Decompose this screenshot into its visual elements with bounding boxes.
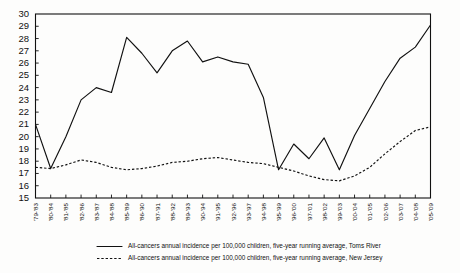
x-tick-label: '03-'07 xyxy=(397,202,404,221)
x-tick-label: '81-'85 xyxy=(62,202,69,221)
y-tick-label: 24 xyxy=(18,82,29,93)
x-tick-label: '99-'03 xyxy=(336,202,343,221)
x-tick-label: '87-'91 xyxy=(154,202,161,221)
y-tick-label: 28 xyxy=(18,33,29,44)
x-tick-label: '82-'86 xyxy=(78,202,85,221)
y-tick-label: 15 xyxy=(18,192,29,203)
y-tick-label: 26 xyxy=(18,57,29,68)
x-tick-label: '01-'05 xyxy=(366,202,373,221)
x-tick-label: '93-'97 xyxy=(245,202,252,221)
y-tick-label: 25 xyxy=(18,69,29,80)
x-tick-label: '80-'84 xyxy=(47,202,54,221)
y-tick-label: 20 xyxy=(18,131,29,142)
x-tick-label: '95-'99 xyxy=(275,202,282,221)
y-tick-label: 19 xyxy=(18,143,29,154)
x-tick-label: '88-'92 xyxy=(169,202,176,221)
y-axis-tick-labels: 15161718192021222324252627282930 xyxy=(18,8,29,203)
chart-container: 15161718192021222324252627282930 '79-'83… xyxy=(0,0,460,273)
y-tick-label: 22 xyxy=(18,106,29,117)
x-tick-label: '97-'01 xyxy=(306,202,313,221)
series-line-toms-river xyxy=(36,25,431,170)
x-tick-label: '85-'89 xyxy=(123,202,130,221)
chart-legend: All-cancers annual incidence per 100,000… xyxy=(97,242,383,262)
legend-label-toms-river: All-cancers annual incidence per 100,000… xyxy=(128,242,382,250)
y-tick-label: 27 xyxy=(18,45,29,56)
x-tick-label: '00-'04 xyxy=(351,202,358,221)
x-tick-label: '90-'94 xyxy=(199,202,206,221)
x-tick-label: '98-'02 xyxy=(321,202,328,221)
x-tick-label: '02-'06 xyxy=(382,202,389,221)
x-axis-tick-labels: '79-'83'80-'84'81-'85'82-'86'83-'87'84-'… xyxy=(32,202,434,221)
y-tick-label: 17 xyxy=(18,167,29,178)
x-tick-label: '86-'90 xyxy=(138,202,145,221)
x-tick-label: '84-'88 xyxy=(108,202,115,221)
x-tick-label: '92-'96 xyxy=(230,202,237,221)
y-tick-label: 18 xyxy=(18,155,29,166)
x-tick-label: '04-'08 xyxy=(412,202,419,221)
incidence-line-chart: 15161718192021222324252627282930 '79-'83… xyxy=(0,0,460,273)
y-tick-label: 23 xyxy=(18,94,29,105)
legend-label-new-jersey: All-cancers annual incidence per 100,000… xyxy=(128,254,383,262)
x-tick-label: '83-'87 xyxy=(93,202,100,221)
series-line-new-jersey xyxy=(36,127,431,181)
x-tick-label: '94-'98 xyxy=(260,202,267,221)
x-tick-label: '05-'09 xyxy=(427,202,434,221)
x-tick-label: '91-'95 xyxy=(214,202,221,221)
y-tick-label: 21 xyxy=(18,118,29,129)
y-tick-label: 30 xyxy=(18,8,29,19)
data-series-group xyxy=(36,25,431,181)
y-tick-label: 29 xyxy=(18,20,29,31)
x-tick-label: '96-'00 xyxy=(290,202,297,221)
x-tick-label: '79-'83 xyxy=(32,202,39,221)
x-tick-label: '89-'93 xyxy=(184,202,191,221)
y-tick-label: 16 xyxy=(18,180,29,191)
